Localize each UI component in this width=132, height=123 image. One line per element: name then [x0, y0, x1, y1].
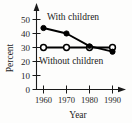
line-chart-plot: 0 10 20 30 40 50 1960 1970 1980 1990 Per… — [0, 0, 132, 123]
marker-with-children-1970 — [64, 31, 69, 36]
y-axis-arrowhead — [34, 3, 40, 11]
marker-with-children-1980 — [87, 44, 92, 49]
y-tick-label-50: 50 — [21, 15, 31, 25]
x-tick-label-1960: 1960 — [35, 95, 52, 105]
y-tick-label-10: 10 — [21, 71, 31, 81]
x-tick-label-1970: 1970 — [58, 95, 75, 105]
chart-figure: 0 10 20 30 40 50 1960 1970 1980 1990 Per… — [0, 0, 132, 123]
y-tick-label-0: 0 — [26, 85, 31, 95]
series-label-without-children: Without children — [39, 56, 104, 66]
marker-with-children-1990 — [110, 49, 115, 54]
x-axis-arrowhead — [118, 87, 126, 93]
y-tick-label-40: 40 — [21, 29, 31, 39]
x-tick-label-1980: 1980 — [81, 95, 98, 105]
marker-with-children-1960 — [41, 25, 46, 30]
series-label-with-children: With children — [47, 12, 99, 22]
x-axis-title: Year — [69, 110, 87, 120]
marker-without-children-1960 — [41, 45, 47, 51]
x-tick-label-1990: 1990 — [104, 95, 121, 105]
marker-without-children-1970 — [64, 45, 70, 51]
y-tick-label-20: 20 — [21, 57, 31, 67]
y-tick-label-30: 30 — [21, 43, 31, 53]
y-axis-title: Percent — [5, 43, 15, 72]
